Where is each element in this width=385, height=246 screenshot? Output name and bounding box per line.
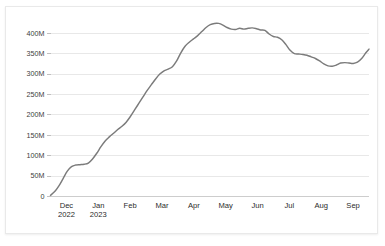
gridlines: [51, 33, 370, 196]
y-axis-label-350M: 350M: [27, 49, 45, 58]
x-axis-label-sep: Sep: [346, 201, 360, 210]
x-axis-label-jan: Jan: [92, 201, 104, 210]
x-axis-label-aug: Aug: [314, 201, 328, 210]
axis-ticks: [47, 33, 51, 196]
x-axis-label-jul: Jul: [285, 201, 295, 210]
x-axis-label-may: May: [218, 201, 233, 210]
chart-svg: 050M100M150M200M250M300M350M400M Dec2022…: [6, 7, 379, 235]
y-axis-label-400M: 400M: [27, 29, 45, 38]
y-axis-label-300M: 300M: [27, 69, 45, 78]
y-axis-label-100M: 100M: [27, 151, 45, 160]
x-axis-labels: Dec2022Jan2023FebMarAprMayJunJulAugSep: [58, 201, 360, 219]
line-chart: 050M100M150M200M250M300M350M400M Dec2022…: [6, 7, 379, 235]
y-axis-label-250M: 250M: [27, 90, 45, 99]
x-axis-label-mar: Mar: [155, 201, 169, 210]
chart-panel: 050M100M150M200M250M300M350M400M Dec2022…: [5, 6, 378, 234]
y-axis-labels: 050M100M150M200M250M300M350M400M: [27, 29, 45, 201]
x-axis-label-feb: Feb: [124, 201, 137, 210]
x-axis-label-dec: Dec: [60, 201, 74, 210]
y-axis-label-150M: 150M: [27, 131, 45, 140]
series-line-value: [51, 23, 370, 195]
y-axis-label-200M: 200M: [27, 110, 45, 119]
x-axis-year-2023: 2023: [90, 210, 107, 219]
y-axis-label-0: 0: [41, 192, 45, 201]
x-axis-year-2022: 2022: [58, 210, 75, 219]
series-lines: [51, 23, 370, 195]
x-axis-label-jun: Jun: [251, 201, 263, 210]
x-axis-label-apr: Apr: [188, 201, 200, 210]
y-axis-label-50M: 50M: [31, 171, 45, 180]
